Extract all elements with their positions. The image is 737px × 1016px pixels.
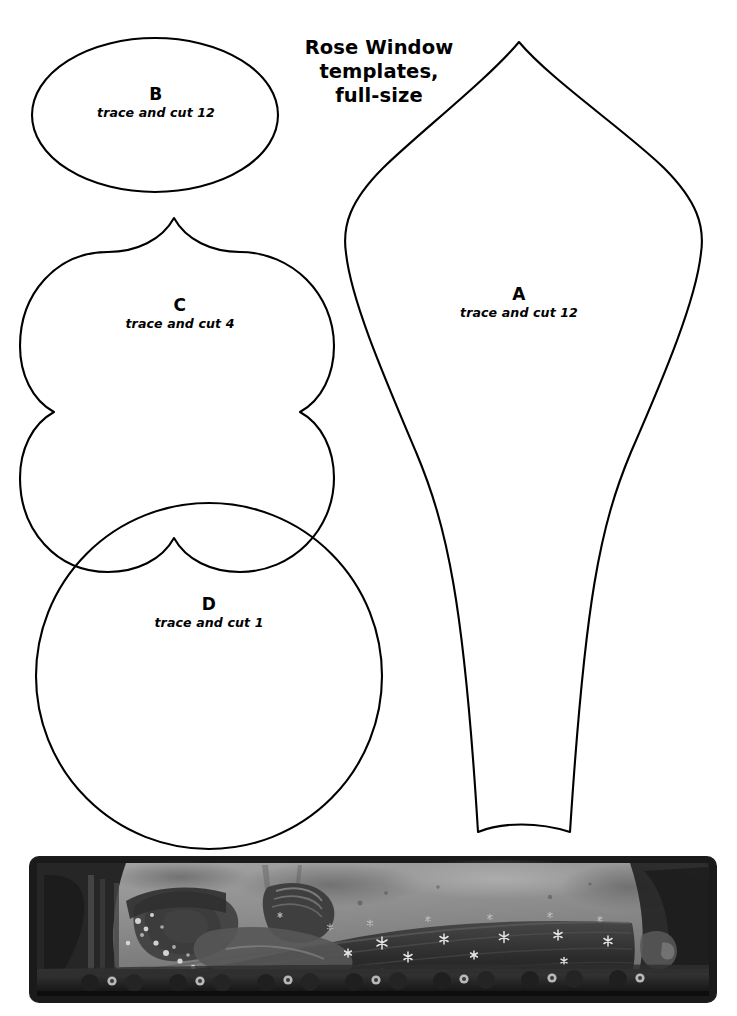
- effigy-photo-graphic: [30, 857, 716, 1002]
- template-instruction-A: trace and cut 12: [408, 306, 630, 320]
- template-letter-D: D: [111, 595, 307, 614]
- template-letter-A: A: [408, 285, 630, 304]
- template-instruction-D: trace and cut 1: [111, 616, 307, 630]
- effigy-photo: [30, 857, 716, 1002]
- template-shape-A[interactable]: [345, 42, 702, 832]
- template-letter-B: B: [58, 85, 254, 104]
- template-shape-C[interactable]: [20, 218, 334, 572]
- template-instruction-B: trace and cut 12: [58, 106, 254, 120]
- title-line-2: templates,: [268, 60, 490, 84]
- template-label-A: A trace and cut 12: [408, 285, 630, 320]
- page-title: Rose Window templates, full-size: [268, 36, 490, 107]
- template-label-C: C trace and cut 4: [82, 296, 278, 331]
- page-canvas: Rose Window templates, full-size A trace…: [0, 0, 737, 1016]
- title-line-1: Rose Window: [268, 36, 490, 60]
- template-shape-D[interactable]: [36, 503, 382, 849]
- template-label-B: B trace and cut 12: [58, 85, 254, 120]
- template-label-D: D trace and cut 1: [111, 595, 307, 630]
- template-letter-C: C: [82, 296, 278, 315]
- title-line-3: full-size: [268, 84, 490, 108]
- template-instruction-C: trace and cut 4: [82, 317, 278, 331]
